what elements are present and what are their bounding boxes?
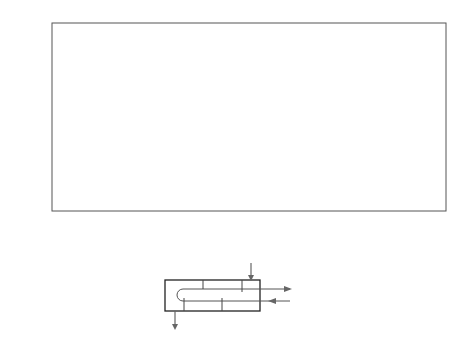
correction-factor-chart bbox=[0, 0, 469, 349]
exchanger-schematic bbox=[0, 0, 292, 330]
arrow-right-icon bbox=[284, 286, 292, 292]
arrow-left-icon bbox=[268, 298, 276, 304]
shell-outline bbox=[165, 280, 260, 311]
arrow-down-icon bbox=[172, 324, 178, 330]
plot-frame bbox=[52, 23, 446, 211]
